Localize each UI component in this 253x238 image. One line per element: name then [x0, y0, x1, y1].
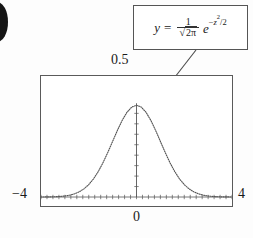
formula-equals-sign: = [164, 21, 171, 34]
formula-expression: y = 1 √2π e−z2/2 [154, 17, 226, 39]
formula-exp-divisor: /2 [220, 17, 227, 27]
x-min-label: −4 [12, 186, 27, 202]
formula-exponential-term: e−z2/2 [203, 19, 227, 35]
x-max-label: 4 [238, 186, 245, 202]
y-max-label: 0.5 [111, 52, 129, 68]
normal-curve-plot [41, 76, 232, 206]
formula-denominator: √2π [177, 28, 199, 39]
formula-y-symbol: y [154, 21, 160, 34]
formula-callout-box: y = 1 √2π e−z2/2 [133, 5, 248, 50]
x-origin-label: 0 [133, 209, 140, 225]
page-edge-artifact [0, 2, 8, 42]
formula-exp-power: 2 [217, 13, 220, 20]
plot-frame [40, 75, 233, 207]
formula-exponent: −z2/2 [209, 17, 227, 27]
figure-root: y = 1 √2π e−z2/2 0.5 −4 4 0 [0, 0, 253, 238]
formula-denominator-body: 2π [185, 26, 197, 38]
formula-fraction: 1 √2π [177, 17, 199, 39]
